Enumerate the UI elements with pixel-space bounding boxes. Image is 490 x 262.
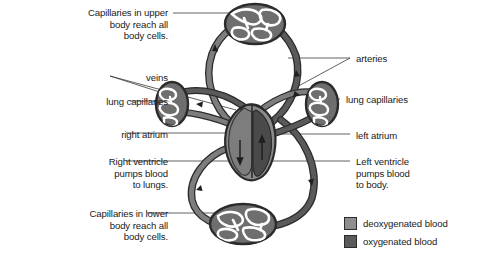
label-capillaries-upper-body: Capillaries in upper body reach all body… xyxy=(18,7,168,42)
label-left-atrium: left atrium xyxy=(356,130,484,142)
capillary-bed-upper-body xyxy=(225,4,285,44)
label-right-atrium: right atrium xyxy=(18,129,168,141)
label-right-ventricle: Right ventricle pumps blood to lungs. xyxy=(18,156,168,191)
legend-label-oxygenated: oxygenated blood xyxy=(363,236,437,247)
label-lung-capillaries-left: lung capillaries xyxy=(18,96,168,108)
label-veins: veins xyxy=(18,72,168,84)
label-arteries: arteries xyxy=(356,53,484,65)
heart xyxy=(225,104,275,180)
legend-swatch-deoxygenated xyxy=(344,217,357,230)
label-left-ventricle: Left ventricle pumps blood to body. xyxy=(356,156,484,191)
legend-label-deoxygenated: deoxygenated blood xyxy=(363,218,448,229)
capillary-bed-lower-body xyxy=(210,204,276,244)
capillary-bed-lung-right xyxy=(306,82,338,127)
legend: deoxygenated blood oxygenated blood xyxy=(344,216,484,252)
legend-item-deoxygenated: deoxygenated blood xyxy=(344,216,484,231)
legend-swatch-oxygenated xyxy=(344,235,357,248)
legend-item-oxygenated: oxygenated blood xyxy=(344,234,484,249)
circulatory-system-figure: Capillaries in upper body reach all body… xyxy=(0,0,490,262)
label-lung-capillaries-right: lung capillaries xyxy=(346,94,484,106)
label-capillaries-lower-body: Capillaries in lower body reach all body… xyxy=(10,208,168,243)
